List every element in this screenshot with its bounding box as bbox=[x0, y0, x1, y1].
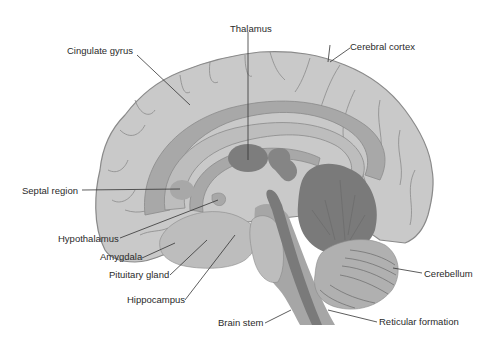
hypothalamus-shape bbox=[212, 193, 226, 206]
label-amygdala: Amygdala bbox=[100, 252, 142, 262]
label-brain-stem: Brain stem bbox=[218, 318, 263, 328]
label-cerebral-cortex: Cerebral cortex bbox=[350, 42, 415, 52]
label-cingulate-gyrus: Cingulate gyrus bbox=[67, 46, 133, 56]
leader-cortex-2 bbox=[330, 48, 350, 62]
leader-reticular bbox=[328, 310, 377, 322]
label-hypothalamus: Hypothalamus bbox=[58, 234, 119, 244]
label-septal-region: Septal region bbox=[22, 186, 78, 196]
label-pituitary-gland: Pituitary gland bbox=[109, 270, 169, 280]
brain-diagram: Thalamus Cingulate gyrus Cerebral cortex… bbox=[0, 0, 491, 350]
label-cerebellum: Cerebellum bbox=[424, 269, 473, 279]
leader-brainstem bbox=[265, 310, 291, 323]
label-reticular-formation: Reticular formation bbox=[379, 317, 459, 327]
septal-region-shape bbox=[170, 180, 194, 200]
label-thalamus: Thalamus bbox=[230, 24, 272, 34]
label-hippocampus: Hippocampus bbox=[127, 295, 185, 305]
cerebellum-shape bbox=[314, 240, 398, 310]
